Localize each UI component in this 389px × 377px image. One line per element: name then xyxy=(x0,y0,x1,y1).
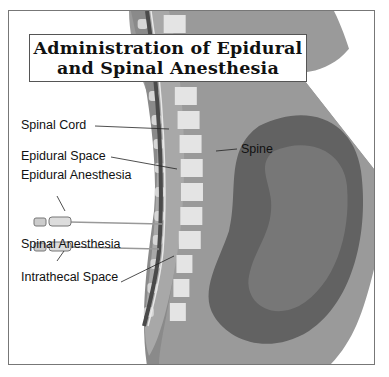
vertebra xyxy=(179,231,201,249)
vertebra xyxy=(164,15,186,33)
title-box: Administration of Epidural and Spinal An… xyxy=(29,34,307,82)
vertebra xyxy=(180,207,202,225)
label-spinal-anesthesia: Spinal Anesthesia xyxy=(21,237,120,251)
illustration-frame: Administration of Epidural and Spinal An… xyxy=(8,10,375,365)
vertebra xyxy=(176,255,192,273)
vertebra xyxy=(178,111,200,129)
title-line-1: Administration of Epidural xyxy=(30,38,306,58)
vertebra xyxy=(181,159,203,177)
leader-spinal-anesthesia xyxy=(57,251,64,261)
vertebra xyxy=(180,135,202,153)
label-epidural-anesthesia: Epidural Anesthesia xyxy=(21,168,132,182)
spinous-process xyxy=(138,19,148,29)
leader-epidural-anesthesia xyxy=(57,196,65,211)
label-spinal-cord: Spinal Cord xyxy=(21,118,86,132)
vertebra xyxy=(173,279,189,297)
label-spine: Spine xyxy=(241,142,273,156)
vertebra xyxy=(170,303,186,321)
vertebra xyxy=(175,87,197,105)
title-line-2: and Spinal Anesthesia xyxy=(30,58,306,78)
epidural-needle xyxy=(34,217,162,226)
label-epidural-space: Epidural Space xyxy=(21,149,106,163)
label-intrathecal-space: Intrathecal Space xyxy=(21,270,118,284)
vertebra xyxy=(181,183,203,201)
